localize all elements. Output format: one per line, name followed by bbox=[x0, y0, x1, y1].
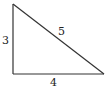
triangle-diagram: 3 5 4 bbox=[0, 0, 107, 88]
horizontal-side-label: 4 bbox=[50, 76, 57, 88]
hypotenuse-label: 5 bbox=[58, 25, 65, 38]
vertical-side-label: 3 bbox=[2, 34, 9, 47]
hypotenuse bbox=[13, 4, 104, 74]
triangle-svg: 3 5 4 bbox=[0, 0, 107, 88]
